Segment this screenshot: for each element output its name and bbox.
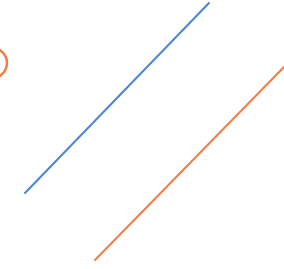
blue-line <box>25 3 209 193</box>
orange-circle-arc <box>0 48 7 78</box>
drawing-canvas <box>0 0 284 269</box>
orange-line <box>95 67 284 260</box>
